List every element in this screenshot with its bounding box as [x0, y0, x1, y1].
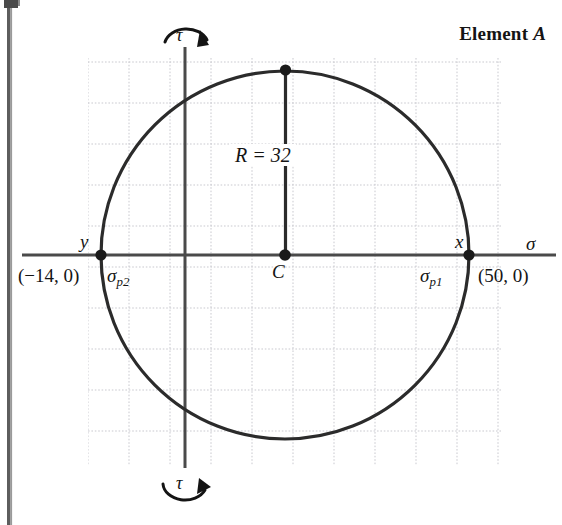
figure-title: Element A	[459, 24, 546, 43]
sigma-subscript-p1: p1	[429, 274, 442, 289]
sigma-glyph-p1: σ	[420, 265, 429, 286]
radius-label: R = 32	[230, 144, 296, 166]
coords-label-right: (50, 0)	[478, 266, 529, 285]
point-label-center: C	[272, 262, 285, 281]
rotation-arrow-counterclockwise-icon	[163, 478, 211, 500]
point-label-y: y	[80, 232, 88, 251]
sigma-glyph-p2: σ	[107, 265, 116, 286]
tau-axis-label-top: τ	[176, 26, 182, 44]
coords-label-left: (−14, 0)	[18, 266, 79, 285]
point-center-c	[279, 249, 291, 261]
rotation-arrow-clockwise-icon	[165, 29, 209, 47]
point-label-x: x	[455, 232, 463, 251]
tau-axis-label-bottom: τ	[176, 474, 182, 492]
point-circle-top	[280, 64, 291, 75]
stress-label-sigma-p2: σp2	[107, 266, 130, 289]
sigma-subscript-p2: p2	[116, 274, 129, 289]
figure-title-prefix: Element	[459, 23, 528, 44]
figure-title-suffix: A	[533, 23, 546, 44]
grid-lines	[88, 58, 502, 466]
scan-edge-artifact	[4, 0, 20, 525]
point-sigma-p1	[463, 249, 474, 260]
stress-label-sigma-p1: σp1	[420, 266, 443, 289]
mohrs-circle-figure: Element A σ τ τ y x C (−14, 0) (50, 0) σ…	[0, 0, 562, 525]
sigma-axis-label: σ	[526, 234, 535, 253]
point-sigma-p2	[95, 249, 106, 260]
